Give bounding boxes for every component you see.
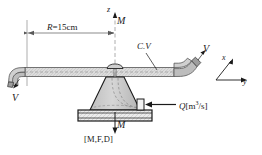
sprinkler-diagram: R=15cm z M C.V V V x y Q[m3/s] M [M,F,D] — [0, 0, 262, 155]
diagram-canvas — [0, 0, 262, 155]
inlet-port — [137, 99, 144, 110]
x-axis-label: x — [222, 54, 226, 62]
radius-label: R=15cm — [47, 23, 78, 32]
flow-rate-arrow — [145, 102, 176, 108]
conical-pedestal — [90, 77, 140, 112]
velocity-left-label: V — [12, 93, 18, 103]
velocity-right-label: V — [203, 44, 209, 54]
flow-rate-label: Q[m3/s] — [179, 100, 208, 111]
z-axis-label: z — [107, 6, 110, 14]
y-axis-label: y — [243, 78, 247, 86]
torque-top-label: M — [117, 16, 125, 26]
bottom-tag-label: [M,F,D] — [84, 135, 113, 144]
torque-bottom-label: M — [117, 120, 125, 130]
control-volume-label: C.V — [137, 42, 151, 51]
